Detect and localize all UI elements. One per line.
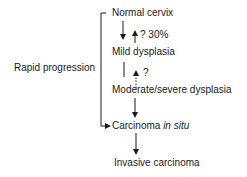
rapid-progression-bracket: [101, 13, 108, 126]
stage-moderate-severe-dysplasia: Moderate/severe dysplasia: [112, 84, 232, 96]
stage-mild-dysplasia: Mild dysplasia: [112, 46, 175, 58]
stage-normal-cervix: Normal cervix: [112, 7, 173, 19]
regression-label-30: ? 30%: [140, 29, 168, 41]
cis-label-italic: in situ: [163, 120, 189, 131]
stage-invasive-carcinoma: Invasive carcinoma: [114, 157, 200, 169]
regression-label-unknown: ?: [143, 67, 149, 79]
rapid-progression-label: Rapid progression: [14, 62, 95, 74]
stage-carcinoma-in-situ: Carcinoma in situ: [112, 120, 189, 132]
cis-label-main: Carcinoma: [112, 120, 163, 131]
